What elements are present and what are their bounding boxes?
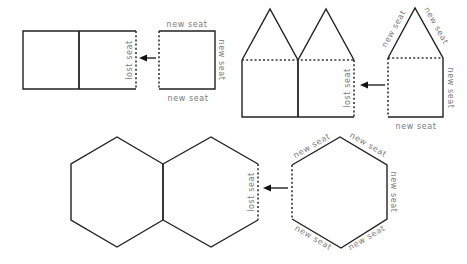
hexagon-right-bottom (163, 220, 258, 247)
pentagon-lost-seat-label: lost seat (343, 68, 352, 108)
square-new-seat-right: new seat (217, 39, 226, 80)
arrow-pentagon (360, 82, 385, 89)
arrow-square (139, 55, 156, 62)
seating-diagram: lost seat new seat new seat new seat los… (0, 0, 467, 264)
pentagon-new-seat-roof-right: new seat (422, 6, 450, 46)
single-hexagon: new seat new seat new seat new seat new … (292, 131, 398, 252)
joined-squares: lost seat (23, 31, 136, 89)
single-pentagon: new seat new seat new seat new seat (380, 6, 455, 131)
hexagon-new-seat-right: new seat (389, 171, 398, 212)
hexagon-lost-seat-label: lost seat (247, 172, 256, 212)
arrow-hexagon (263, 185, 288, 192)
hexagon-left-outline (71, 137, 163, 247)
pentagon-pair-roofs (242, 9, 354, 60)
square-new-seat-bottom: new seat (167, 94, 208, 103)
hexagon-new-seat-bottom-left: new seat (293, 224, 333, 252)
single-square: new seat new seat new seat (159, 20, 226, 103)
pentagon-new-seat-right: new seat (446, 67, 455, 108)
square-lost-seat-label: lost seat (125, 40, 134, 80)
square-single-outline (159, 31, 215, 89)
joined-pentagons: lost seat (242, 9, 354, 117)
square-new-seat-top: new seat (166, 20, 207, 29)
pentagon-new-seat-bottom: new seat (395, 122, 436, 131)
arrowhead-icon (263, 185, 271, 192)
hexagon-right-top (163, 137, 258, 164)
arrowhead-icon (360, 82, 368, 89)
hexagon-new-seat-bottom-right: new seat (347, 224, 387, 252)
arrowhead-icon (139, 55, 147, 62)
joined-hexagons: lost seat (71, 137, 258, 247)
